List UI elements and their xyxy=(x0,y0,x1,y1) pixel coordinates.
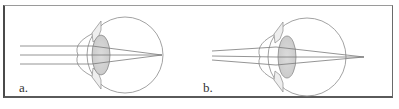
panel-a-label: a. xyxy=(19,80,28,95)
panel-a: a. xyxy=(19,17,163,95)
panel-b-label: b. xyxy=(203,80,213,95)
ray-b-bot xyxy=(212,60,276,65)
panel-b: b. xyxy=(203,18,364,96)
eye-diagram: a. b. xyxy=(0,0,399,109)
ray-b-mid xyxy=(212,56,276,57)
ray-b-top xyxy=(212,47,276,51)
